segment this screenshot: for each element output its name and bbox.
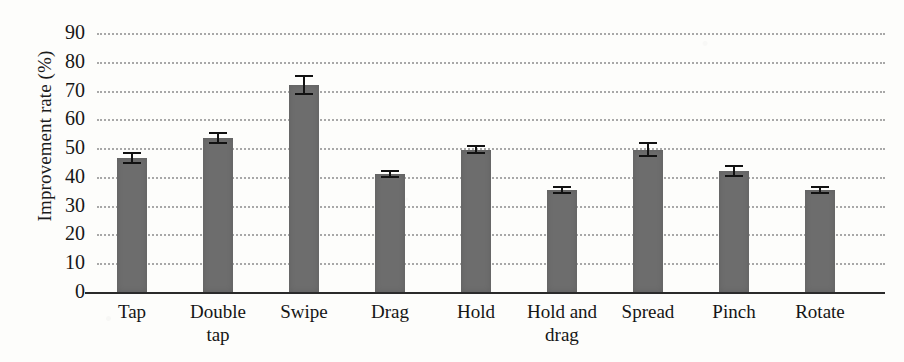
y-tick-label: 10: [45, 252, 85, 272]
error-bar: [725, 165, 743, 177]
x-axis-line: [85, 292, 885, 294]
error-bar: [553, 186, 571, 195]
x-tick-label: Rotate: [768, 300, 872, 323]
error-bar-cap-top: [467, 145, 485, 147]
error-bar-cap-bottom: [553, 192, 571, 194]
y-tick-label: 0: [45, 281, 85, 301]
error-bar: [639, 142, 657, 156]
error-bar: [123, 152, 141, 164]
error-bar-cap-bottom: [295, 93, 313, 95]
error-bar-cap-bottom: [209, 142, 227, 144]
y-tick-label: 60: [45, 108, 85, 128]
error-bar: [295, 75, 313, 95]
x-tick-label-line1: Swipe: [280, 301, 328, 322]
error-bar-cap-top: [811, 186, 829, 188]
x-tick-label-line1: Hold and: [527, 301, 597, 322]
bar: [461, 150, 491, 292]
y-tick-label: 40: [45, 166, 85, 186]
error-bar-cap-top: [725, 165, 743, 167]
x-tick-label-line2: drag: [510, 323, 614, 346]
bar: [117, 158, 147, 292]
gridline: [97, 119, 885, 121]
bar: [719, 171, 749, 292]
chart-figure: Improvement rate (%) 9080706050403020100…: [0, 0, 904, 362]
bar: [633, 150, 663, 292]
error-bar-cap-top: [553, 186, 571, 188]
x-tick-label-line1: Hold: [457, 301, 495, 322]
error-bar: [811, 186, 829, 195]
bar: [805, 190, 835, 292]
y-tick-label: 70: [45, 80, 85, 100]
x-tick-label-line1: Double: [190, 301, 246, 322]
error-bar-stem: [303, 75, 305, 95]
error-bar-cap-bottom: [381, 176, 399, 178]
x-tick-label-line1: Rotate: [795, 301, 845, 322]
gridline: [97, 91, 885, 93]
x-tick-label-line1: Tap: [118, 301, 146, 322]
bar: [547, 190, 577, 292]
y-tick-label: 80: [45, 51, 85, 71]
error-bar-cap-top: [295, 75, 313, 77]
y-tick-label: 20: [45, 223, 85, 243]
error-bar-cap-top: [381, 170, 399, 172]
error-bar-cap-top: [639, 142, 657, 144]
error-bar-cap-bottom: [467, 152, 485, 154]
error-bar-cap-top: [123, 152, 141, 154]
x-tick-label-line2: tap: [166, 323, 270, 346]
bar: [289, 85, 319, 292]
error-bar: [381, 170, 399, 179]
error-bar-cap-bottom: [639, 155, 657, 157]
x-tick-label-line1: Spread: [622, 301, 675, 322]
bar: [375, 174, 405, 292]
y-tick-label: 90: [45, 22, 85, 42]
bar: [203, 138, 233, 292]
error-bar: [467, 145, 485, 154]
y-tick-label: 50: [45, 137, 85, 157]
y-tick-label: 30: [45, 195, 85, 215]
error-bar-cap-bottom: [123, 162, 141, 164]
error-bar-cap-bottom: [811, 192, 829, 194]
gridline: [97, 62, 885, 64]
error-bar-cap-bottom: [725, 175, 743, 177]
plot-area: 9080706050403020100: [97, 33, 885, 292]
error-bar-cap-top: [209, 132, 227, 134]
x-tick-label-line1: Pinch: [712, 301, 755, 322]
error-bar: [209, 132, 227, 144]
x-tick-label-line1: Drag: [371, 301, 409, 322]
gridline: [97, 33, 885, 35]
